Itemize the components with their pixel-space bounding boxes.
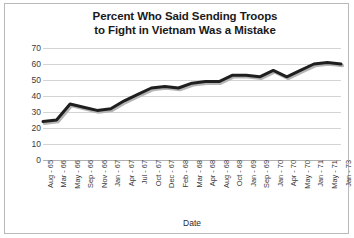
data-series-path (43, 62, 341, 121)
y-axis-tick-label: 40 (7, 92, 41, 100)
x-axis-tick-label: Feb - 68 (182, 160, 190, 212)
y-axis-ticks: 706050403020100 (3, 0, 41, 238)
x-axis-tick-label: Aug - 65 (47, 160, 55, 212)
x-axis-tick-label: Nov - 66 (101, 160, 109, 212)
x-axis-tick-label: May - 66 (74, 160, 82, 212)
y-axis-tick-label: 50 (7, 76, 41, 84)
x-axis-title: Date (43, 218, 341, 228)
y-axis-tick-label: 30 (7, 108, 41, 116)
x-axis-tick-label: Jan - 70 (277, 160, 285, 212)
x-axis-tick-label: Jul - 67 (141, 160, 149, 212)
x-axis-tick-label: May - 71 (331, 160, 339, 212)
x-axis-tick-label: Apr - 70 (290, 160, 298, 212)
data-series-line (43, 48, 341, 160)
x-axis-tick-label: Jan - 67 (114, 160, 122, 212)
chart-figure: Percent Who Said Sending Troops to Fight… (0, 0, 354, 238)
y-axis-tick-label: 20 (7, 124, 41, 132)
x-axis-tick-label: Jan - 73 (345, 160, 353, 212)
plot-wrapper: 706050403020100 Aug - 65Mar - 66May - 66… (0, 0, 354, 238)
x-axis-tick-label: Oct - 68 (236, 160, 244, 212)
x-axis-tick-label: Aug - 68 (223, 160, 231, 212)
y-axis-tick-label: 10 (7, 140, 41, 148)
x-axis-tick-label: Mar - 68 (196, 160, 204, 212)
x-axis-tick-label: Apr - 68 (209, 160, 217, 212)
x-axis-tick-label: Sep - 69 (263, 160, 271, 212)
y-axis-tick-label: 70 (7, 44, 41, 52)
y-axis-tick-label: 0 (7, 156, 41, 164)
x-axis-tick-label: Jan - 69 (250, 160, 258, 212)
x-axis-tick-label: Oct - 67 (155, 160, 163, 212)
x-axis-tick-label: Sep - 66 (87, 160, 95, 212)
x-axis-tick-label: Apr - 67 (128, 160, 136, 212)
x-axis-tick-label: Mar - 66 (60, 160, 68, 212)
y-axis-tick-label: 60 (7, 60, 41, 68)
x-axis-tick-label: Jan - 71 (317, 160, 325, 212)
x-axis-tick-label: May - 70 (304, 160, 312, 212)
x-axis-ticks: Aug - 65Mar - 66May - 66Sep - 66Nov - 66… (43, 163, 341, 215)
x-axis-tick-label: Dec - 67 (168, 160, 176, 212)
